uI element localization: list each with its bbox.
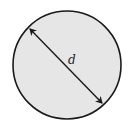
circle-diagram: d (0, 0, 136, 129)
circle-shape (13, 11, 121, 119)
diameter-label: d (68, 53, 76, 67)
